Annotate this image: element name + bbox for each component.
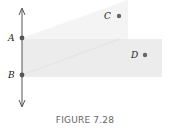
- label-c: C: [104, 11, 111, 21]
- label-d: D: [130, 50, 138, 60]
- upper-wedge-region: [22, 0, 128, 39]
- point-b: [20, 73, 25, 78]
- point-a: [20, 36, 25, 41]
- point-c: [117, 14, 121, 18]
- figure-caption: FIGURE 7.28: [0, 115, 170, 125]
- point-d: [143, 53, 147, 57]
- label-a: A: [7, 33, 15, 43]
- label-b: B: [7, 70, 15, 80]
- lower-band-region: [22, 39, 162, 77]
